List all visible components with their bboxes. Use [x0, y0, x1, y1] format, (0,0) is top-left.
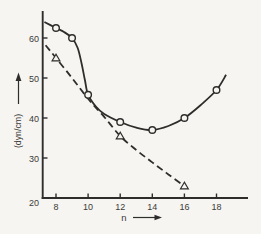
x-tick-label: 8: [53, 202, 58, 212]
x-axis-arrowhead-icon: [155, 215, 163, 221]
y-tick-label: 50: [29, 74, 39, 84]
triangle-marker: [181, 182, 189, 189]
circle-marker: [213, 87, 220, 94]
y-axis-label: (dyn/cm): [13, 114, 23, 148]
y-tick-label: 40: [29, 114, 39, 124]
y-tick-label: 30: [29, 154, 39, 164]
y-tick-label: 60: [29, 34, 39, 44]
circle-marker: [117, 119, 124, 126]
x-axis-label: n: [121, 212, 126, 223]
circle-marker: [181, 115, 188, 122]
figure: 810121416182030405060n(dyn/cm): [0, 0, 261, 234]
circle-marker: [149, 127, 156, 134]
y-tick-label: 20: [29, 198, 39, 208]
x-tick-label: 12: [115, 202, 125, 212]
circle-marker: [69, 35, 76, 42]
x-tick-label: 14: [147, 202, 157, 212]
x-tick-label: 16: [179, 202, 189, 212]
x-tick-label: 10: [83, 202, 93, 212]
lower-dashed-triangle-series-curve: [46, 45, 185, 186]
line-chart: 810121416182030405060n(dyn/cm): [0, 0, 261, 234]
circle-marker: [53, 25, 60, 32]
circle-marker: [85, 92, 92, 99]
x-tick-label: 18: [211, 202, 221, 212]
y-axis-arrowhead-icon: [16, 73, 22, 82]
